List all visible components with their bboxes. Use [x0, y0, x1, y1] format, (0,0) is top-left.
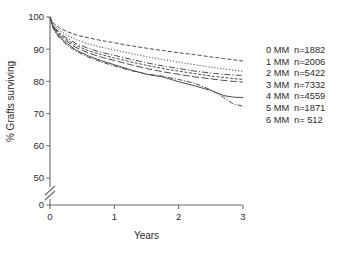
y-tick-label: 70	[33, 108, 44, 119]
y-tick-label: 100	[28, 11, 44, 22]
legend-count-1: n=2006	[294, 57, 325, 67]
y-tick-label: 60	[33, 140, 44, 151]
legend-count-2: n=5422	[294, 68, 325, 78]
legend-label-3: 3 MM	[266, 80, 289, 90]
y-axis: 05060708090100	[28, 11, 50, 210]
y-tick-label: 50	[33, 172, 44, 183]
legend-label-2: 2 MM	[266, 68, 289, 78]
y-tick-label: 90	[33, 44, 44, 55]
curve-5-mm	[50, 17, 243, 98]
curve-series-group	[50, 17, 243, 106]
y-axis-break-icon	[45, 186, 55, 200]
legend-count-4: n=4559	[294, 91, 325, 101]
legend-label-4: 4 MM	[266, 91, 289, 101]
y-axis-title: % Grafts surviving	[5, 61, 16, 142]
x-tick-label: 0	[47, 211, 52, 222]
curve-6-mm	[50, 17, 243, 106]
x-axis-title: Years	[134, 230, 159, 241]
curve-0-mm	[50, 17, 243, 61]
legend: 0 MMn=18821 MMn=20062 MMn=54223 MMn=7332…	[266, 45, 325, 125]
x-tick-label: 1	[112, 211, 117, 222]
legend-label-6: 6 MM	[266, 115, 289, 125]
curve-4-mm	[50, 17, 243, 82]
x-axis: 0123	[47, 205, 245, 222]
curve-1-mm	[50, 17, 243, 71]
y-tick-label: 80	[33, 76, 44, 87]
x-tick-label: 2	[176, 211, 181, 222]
legend-label-1: 1 MM	[266, 57, 289, 67]
legend-label-5: 5 MM	[266, 103, 289, 113]
y-tick-label: 0	[39, 199, 44, 210]
survival-chart: 05060708090100 0123 Years % Grafts survi…	[0, 0, 340, 259]
chart-svg: 05060708090100 0123 Years % Grafts survi…	[0, 0, 340, 259]
legend-count-0: n=1882	[294, 45, 325, 55]
legend-label-0: 0 MM	[266, 45, 289, 55]
legend-count-3: n=7332	[294, 80, 325, 90]
x-tick-label: 3	[240, 211, 245, 222]
legend-count-6: n= 512	[294, 115, 323, 125]
legend-count-5: n=1871	[294, 103, 325, 113]
